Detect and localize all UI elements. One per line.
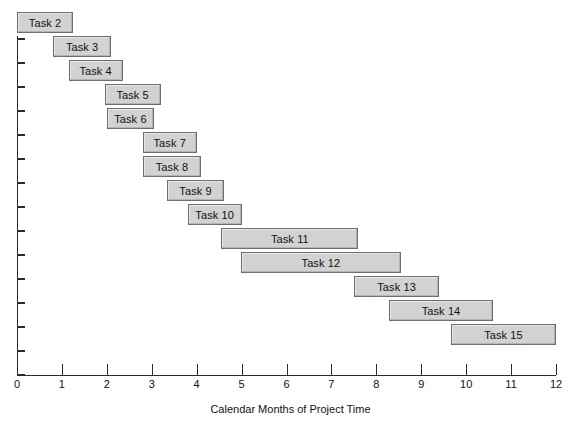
y-axis-tick xyxy=(18,374,25,376)
task-bar[interactable]: Task 5 xyxy=(105,84,161,105)
y-axis-tick xyxy=(18,278,25,280)
task-bar[interactable]: Task 13 xyxy=(354,276,439,297)
x-axis-tick xyxy=(376,364,377,375)
task-bar-label: Task 8 xyxy=(156,161,188,173)
y-axis-tick xyxy=(18,206,25,208)
x-axis-tick-label: 5 xyxy=(230,378,254,391)
task-bar-label: Task 9 xyxy=(179,185,211,197)
task-bar-label: Task 5 xyxy=(116,89,148,101)
x-axis-tick xyxy=(62,364,63,375)
x-axis-tick xyxy=(331,364,332,375)
task-bar[interactable]: Task 12 xyxy=(241,252,401,273)
x-axis-tick-label: 1 xyxy=(50,378,74,391)
x-axis-tick xyxy=(152,364,153,375)
task-bar[interactable]: Task 7 xyxy=(143,132,197,153)
task-bar[interactable]: Task 6 xyxy=(107,108,154,129)
task-bar[interactable]: Task 11 xyxy=(221,228,358,249)
x-axis-tick-label: 12 xyxy=(544,378,568,391)
x-axis-tick-label: 7 xyxy=(319,378,343,391)
x-axis-tick xyxy=(17,364,18,375)
x-axis-line xyxy=(17,375,556,376)
x-axis-tick-label: 6 xyxy=(275,378,299,391)
task-bar-label: Task 2 xyxy=(29,17,61,29)
y-axis-tick xyxy=(18,158,25,160)
x-axis-tick-label: 4 xyxy=(185,378,209,391)
x-axis-tick xyxy=(287,364,288,375)
plot-area: 0123456789101112 Task 2Task 3Task 4Task … xyxy=(0,0,581,390)
y-axis-tick xyxy=(18,86,25,88)
task-bar[interactable]: Task 9 xyxy=(167,180,223,201)
task-bar[interactable]: Task 2 xyxy=(17,12,73,33)
y-axis-tick xyxy=(18,38,25,40)
y-axis-tick xyxy=(18,134,25,136)
y-axis-tick xyxy=(18,182,25,184)
task-bar-label: Task 12 xyxy=(302,257,341,269)
y-axis-tick xyxy=(18,302,25,304)
task-bar-label: Task 10 xyxy=(195,209,234,221)
task-bar-label: Task 4 xyxy=(79,65,111,77)
x-axis-tick xyxy=(466,364,467,375)
x-axis-tick xyxy=(197,364,198,375)
x-axis-tick-label: 8 xyxy=(364,378,388,391)
x-axis-tick-label: 0 xyxy=(5,378,29,391)
task-bar-label: Task 14 xyxy=(422,305,461,317)
y-axis-tick xyxy=(18,254,25,256)
y-axis-tick xyxy=(18,326,25,328)
task-bar[interactable]: Task 3 xyxy=(53,36,111,57)
task-bar-label: Task 11 xyxy=(271,233,309,245)
x-axis-title: Calendar Months of Project Time xyxy=(0,402,581,416)
x-axis-tick-label: 9 xyxy=(409,378,433,391)
y-axis-tick xyxy=(18,350,25,352)
x-axis-tick-label: 10 xyxy=(454,378,478,391)
y-axis-tick xyxy=(18,230,25,232)
y-axis-tick xyxy=(18,62,25,64)
gantt-chart: 0123456789101112 Task 2Task 3Task 4Task … xyxy=(0,0,581,429)
task-bar[interactable]: Task 14 xyxy=(389,300,493,321)
task-bar-label: Task 13 xyxy=(377,281,416,293)
task-bar-label: Task 6 xyxy=(114,113,146,125)
x-axis-tick xyxy=(511,364,512,375)
task-bar[interactable]: Task 10 xyxy=(188,204,242,225)
x-axis-tick-label: 2 xyxy=(95,378,119,391)
x-axis-tick-label: 11 xyxy=(499,378,523,391)
x-axis-tick xyxy=(421,364,422,375)
task-bar-label: Task 3 xyxy=(66,41,98,53)
y-axis-tick xyxy=(18,110,25,112)
task-bar[interactable]: Task 15 xyxy=(451,324,556,345)
x-axis-tick xyxy=(107,364,108,375)
task-bar-label: Task 15 xyxy=(484,329,523,341)
task-bar-label: Task 7 xyxy=(154,137,186,149)
x-axis-tick xyxy=(242,364,243,375)
task-bar[interactable]: Task 4 xyxy=(69,60,123,81)
task-bar[interactable]: Task 8 xyxy=(143,156,201,177)
x-axis-tick-label: 3 xyxy=(140,378,164,391)
x-axis-tick xyxy=(556,364,557,375)
